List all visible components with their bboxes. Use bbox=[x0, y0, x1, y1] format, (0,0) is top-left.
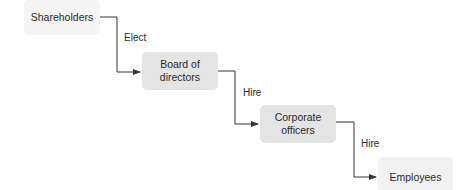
edge-label-hire-employees: Hire bbox=[361, 138, 379, 149]
node-employees-label: Employees bbox=[390, 171, 442, 184]
node-corporate-officers: Corporate officers bbox=[260, 105, 336, 143]
node-board-label-line1: Board of bbox=[160, 58, 200, 71]
edge-label-hire-officers: Hire bbox=[243, 87, 261, 98]
node-officers-label-line1: Corporate bbox=[275, 111, 322, 124]
edge-elect-connector bbox=[100, 17, 140, 72]
edge-label-elect: Elect bbox=[124, 32, 146, 43]
node-shareholders-label: Shareholders bbox=[31, 11, 93, 24]
node-employees: Employees bbox=[378, 157, 453, 190]
node-officers-label-line2: officers bbox=[281, 124, 315, 137]
node-board-of-directors: Board of directors bbox=[142, 52, 218, 90]
node-board-label-line2: directors bbox=[160, 71, 200, 84]
node-shareholders: Shareholders bbox=[24, 0, 100, 35]
edge-hire-employees-connector bbox=[336, 122, 376, 177]
